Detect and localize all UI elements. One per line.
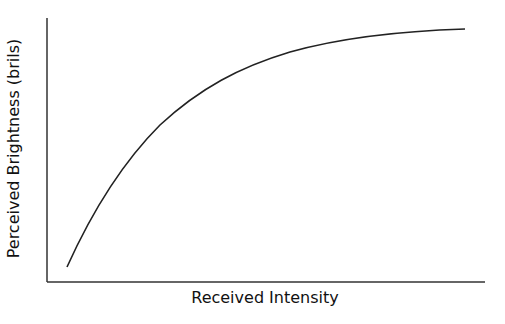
chart-canvas: [0, 0, 505, 324]
y-axis-label: Perceived Brightness (brils): [4, 14, 23, 284]
brightness-curve: [67, 29, 465, 267]
x-axis-label: Received Intensity: [0, 288, 505, 307]
